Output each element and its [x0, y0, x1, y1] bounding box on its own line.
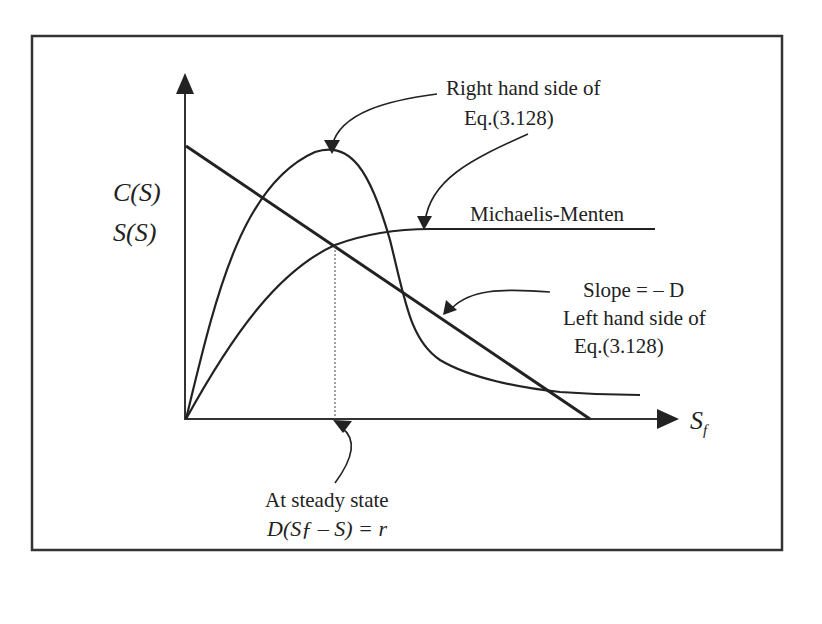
mm-arrowhead-icon — [417, 216, 432, 230]
lhs-label-line1: Left hand side of — [563, 308, 706, 329]
slope-annotation-arrow — [452, 290, 550, 308]
x-axis-arrowhead-icon — [657, 409, 679, 429]
y-axis-label-c: C(S) — [113, 180, 161, 206]
michaelis-menten-label: Michaelis-Menten — [470, 204, 624, 225]
straight-line-lhs — [186, 146, 590, 419]
x-axis-label-subscript: f — [703, 422, 707, 438]
rhs-annotation-arrow — [332, 94, 437, 146]
slope-arrowhead-icon — [443, 300, 457, 315]
rhs-arrowhead-icon — [324, 140, 340, 154]
x-axis-label-main: S — [690, 406, 703, 435]
steady-state-annotation-arrow — [335, 428, 351, 483]
steady-state-equation: D(Sƒ – S) = r — [267, 518, 387, 540]
lhs-label-line2: Eq.(3.128) — [574, 336, 664, 357]
rhs-label-line2: Eq.(3.128) — [464, 108, 554, 129]
y-axis-arrowhead-icon — [176, 73, 194, 94]
slope-label: Slope = – D — [583, 280, 684, 301]
x-axis-label: Sf — [690, 408, 707, 438]
rhs-label-line1: Right hand side of — [446, 78, 601, 99]
y-axis-label-s: S(S) — [113, 220, 156, 246]
rhs-curve — [186, 149, 640, 419]
steady-state-label: At steady state — [265, 490, 389, 511]
steady-state-arrowhead-icon — [333, 420, 352, 433]
